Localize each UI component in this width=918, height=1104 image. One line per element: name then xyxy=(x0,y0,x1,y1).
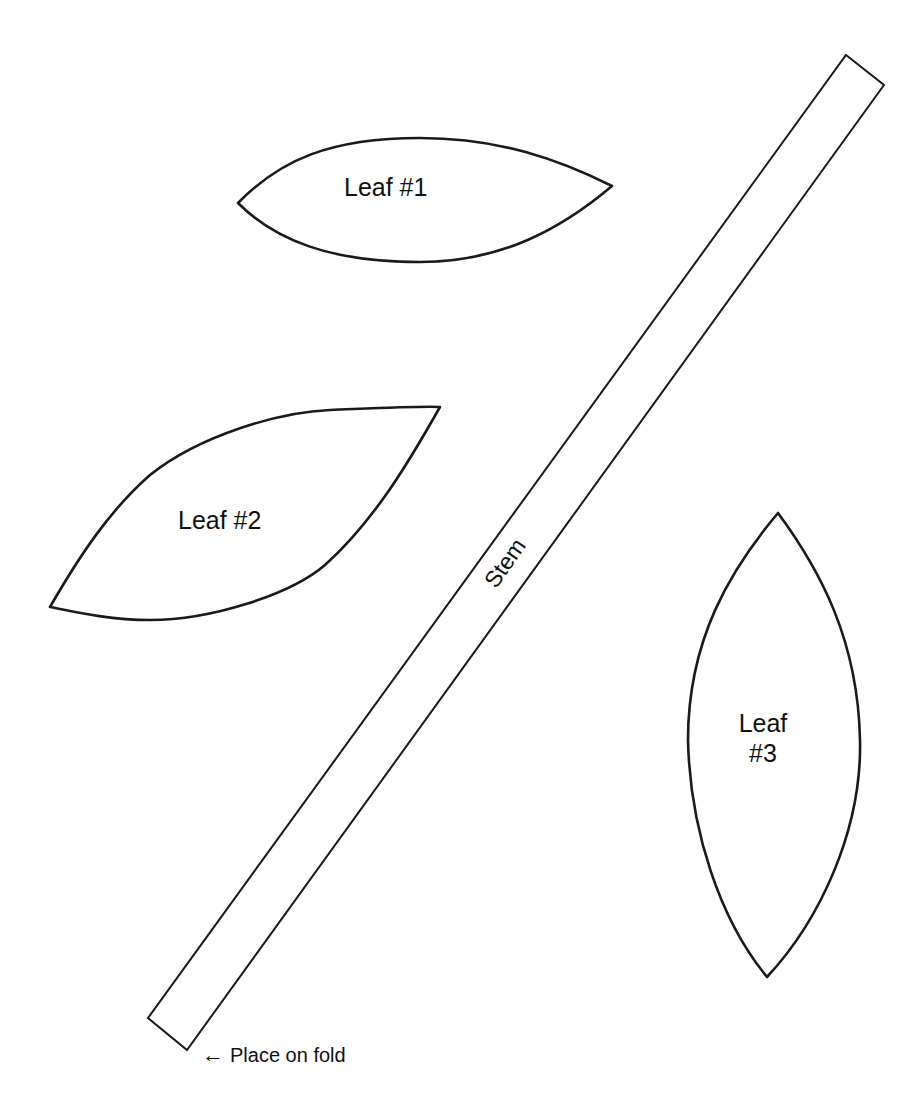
pattern-sheet xyxy=(0,0,918,1104)
leaf-3-label-line1: Leaf xyxy=(733,708,793,738)
place-on-fold-text: Place on fold xyxy=(230,1040,346,1070)
leaf-1-label: Leaf #1 xyxy=(344,172,427,202)
leaf-3-label-line2: #3 xyxy=(733,738,793,768)
leaf-3-label: Leaf #3 xyxy=(733,708,793,768)
arrow-left-icon: ← xyxy=(202,1045,224,1065)
place-on-fold-note: ← Place on fold xyxy=(202,1040,346,1070)
leaf-2-label: Leaf #2 xyxy=(178,505,261,535)
